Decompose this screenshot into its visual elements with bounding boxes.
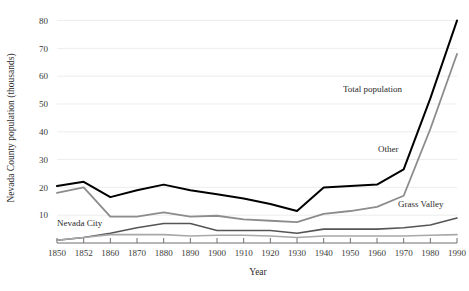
series-annotation-label: Grass Valley bbox=[398, 199, 444, 209]
y-tick-label: 20 bbox=[39, 183, 49, 193]
series-annotation-label: Other bbox=[378, 144, 399, 154]
x-tick-label: 1940 bbox=[315, 248, 334, 258]
x-tick-label: 1900 bbox=[208, 248, 227, 258]
y-tick-label: 80 bbox=[39, 16, 49, 26]
y-axis-title: Nevada County population (thousands) bbox=[6, 53, 17, 202]
chart-figure: 1020304050607080 18501852186018701880189… bbox=[0, 0, 469, 291]
x-tick-label: 1852 bbox=[75, 248, 93, 258]
x-tick-label: 1930 bbox=[288, 248, 307, 258]
line-chart: 1020304050607080 18501852186018701880189… bbox=[0, 0, 469, 291]
series-annotation-label: Nevada City bbox=[57, 218, 103, 228]
y-tick-label: 30 bbox=[39, 155, 49, 165]
x-tick-label: 1910 bbox=[235, 248, 254, 258]
x-axis-title: Year bbox=[249, 267, 267, 277]
x-tick-label: 1920 bbox=[261, 248, 280, 258]
x-tick-label: 1960 bbox=[368, 248, 387, 258]
series-annotation-label: Total population bbox=[343, 84, 403, 94]
x-tick-label: 1990 bbox=[448, 248, 467, 258]
x-tick-label: 1860 bbox=[101, 248, 120, 258]
x-tick-label: 1970 bbox=[395, 248, 414, 258]
y-tick-label: 50 bbox=[39, 99, 49, 109]
x-tick-label: 1880 bbox=[155, 248, 174, 258]
x-tick-label: 1890 bbox=[181, 248, 200, 258]
x-tick-label: 1870 bbox=[128, 248, 147, 258]
y-tick-label: 40 bbox=[39, 127, 49, 137]
x-tick-label: 1980 bbox=[421, 248, 440, 258]
y-tick-label: 70 bbox=[39, 44, 49, 54]
x-tick-label: 1850 bbox=[48, 248, 67, 258]
x-tick-label: 1950 bbox=[341, 248, 360, 258]
y-tick-label: 10 bbox=[39, 210, 49, 220]
y-tick-label: 60 bbox=[39, 71, 49, 81]
